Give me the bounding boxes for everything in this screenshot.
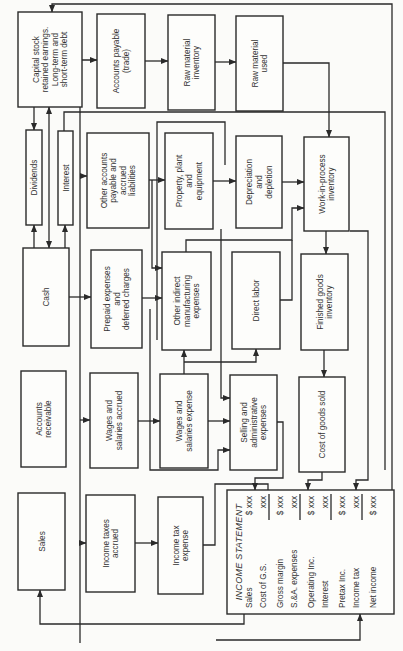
cogs-to-is-line	[308, 472, 322, 490]
ppe-to-selling-line	[221, 229, 230, 398]
box-wages-accrued: Wages andsalaries accrued	[90, 373, 138, 468]
income-statement-row-label: Operating Inc.	[307, 557, 316, 608]
box-accounts-payable: Accounts payable(trade)	[97, 14, 145, 108]
box-finished-goods: Finished goodsinventory	[301, 254, 348, 350]
box-label: Selling and	[240, 402, 249, 443]
box-label: short-term debt	[60, 31, 69, 87]
box-other-indirect: Other indirectmanufacturingexpenses	[162, 252, 211, 350]
box-property-plant: Property, plantandequipment	[165, 133, 213, 229]
box-label: Other accounts	[100, 153, 109, 209]
income-statement-row-label: Income tax	[352, 568, 361, 608]
box-label: inventory	[327, 166, 336, 200]
box-label: expenses	[192, 283, 201, 318]
box-income-taxes-accrued: Income taxesaccrued	[86, 495, 135, 592]
income-statement-row-value: $ xxx	[307, 496, 316, 515]
box-label: deferred charges	[122, 268, 131, 330]
box-label: Work-in-process	[318, 154, 327, 213]
raw-used-to-wip-line	[283, 63, 329, 137]
income-statement-row-label: Cost of G.S.	[259, 563, 268, 608]
box-label: inventory	[192, 45, 201, 79]
box-label: and	[185, 174, 194, 188]
income-statement-title: INCOME STATEMENT	[234, 503, 244, 601]
box-label: expense	[181, 530, 190, 561]
box-selling-admin: Selling andadministrativeexpenses	[230, 375, 277, 470]
box-work-in-process: Work-in-processinventory	[304, 137, 349, 231]
income-statement: INCOME STATEMENTSales$ xxxCost of G.S.xx…	[227, 490, 394, 614]
box-label: expenses	[259, 405, 268, 440]
income-statement-row-value: $ xxx	[369, 496, 378, 515]
box-label: Long-term and	[51, 32, 60, 86]
box-label: Depreciation	[245, 159, 254, 205]
box-label: payable and	[109, 158, 118, 203]
box-raw-material-used: Raw materialused	[236, 16, 283, 111]
box-label: Sales	[38, 531, 47, 551]
income-statement-row-label: Net income	[369, 566, 378, 608]
box-interest: Interest	[58, 131, 73, 225]
box-label: Prepaid expenses	[103, 266, 112, 332]
box-label: Cost of goods sold	[318, 390, 327, 458]
box-accounts-receivable: Accountsreceivable	[21, 371, 66, 467]
box-label: used	[260, 54, 269, 72]
box-label: Other indirect	[173, 276, 182, 326]
box-sales: Sales	[18, 493, 65, 590]
box-direct-labor: Direct labor	[232, 252, 280, 349]
box-other-accounts-payable: Other accountspayable andaccruedliabilit…	[87, 133, 149, 228]
box-label: Property, plant	[175, 154, 184, 207]
income-statement-row-value: xxx	[321, 496, 330, 508]
income-statement-row-label: Gross margin	[276, 558, 285, 608]
box-prepaid: Prepaid expensesanddeferred charges	[91, 250, 142, 348]
box-cash: Cash	[23, 248, 69, 346]
box-label: retained earnings.	[41, 27, 50, 93]
box-label: administrative	[250, 397, 259, 448]
box-label: Raw material	[251, 39, 260, 87]
box-label: Accounts	[35, 402, 44, 436]
wip-side-line	[350, 231, 368, 490]
is-to-sales-line	[40, 590, 244, 624]
income-statement-row-label: Pretax Inc.	[338, 569, 347, 608]
box-label: Income taxes	[102, 519, 111, 568]
box-label: Cash	[42, 287, 51, 307]
box-label: Wages and	[175, 400, 184, 442]
box-label: (trade)	[122, 49, 131, 73]
box-label: manufacturing	[183, 275, 192, 327]
box-dividends: Dividends	[26, 130, 42, 225]
is-to-net-income-line	[216, 614, 360, 640]
income-statement-row-label: Interest	[321, 580, 330, 608]
cash-flow-diagram: Capital stockretained earnings.Long-term…	[0, 0, 403, 651]
income-statement-row-value: xxx	[259, 496, 268, 508]
box-wages-expense: Wages andsalaries expense	[160, 374, 208, 468]
box-label: Wages and	[105, 400, 114, 442]
box-label: Direct labor	[252, 279, 261, 321]
direct-labor-to-wip-line	[280, 240, 292, 300]
box-label: depletion	[265, 165, 274, 199]
box-label: inventory	[325, 284, 334, 318]
box-label: equipment	[195, 161, 204, 200]
box-label: accrued	[119, 165, 128, 195]
box-label: Income tax	[172, 525, 181, 565]
income-statement-row-label: S.&A. expenses	[290, 550, 299, 608]
box-capital-stock: Capital stockretained earnings.Long-term…	[18, 12, 82, 107]
box-label: Interest	[62, 164, 71, 192]
box-label: Raw material	[183, 38, 192, 86]
box-cogs: Cost of goods sold	[299, 377, 345, 472]
box-label: Accounts payable	[112, 28, 121, 93]
box-label: receivable	[44, 400, 53, 438]
box-label: liabilities	[128, 165, 137, 196]
income-statement-row-value: $ xxx	[276, 496, 285, 515]
box-label: and	[255, 175, 264, 189]
box-depreciation: Depreciationanddepletion	[236, 136, 282, 228]
income-statement-row-value: $ xxx	[338, 496, 347, 515]
income-statement-row-value: xxx	[290, 496, 299, 508]
income-statement-row-value: xxx	[352, 496, 361, 508]
box-label: Capital stock	[32, 35, 41, 83]
box-label: accrued	[111, 528, 120, 558]
box-label: Finished goods	[316, 274, 325, 330]
box-label: and	[113, 292, 122, 306]
box-label: salaries expense	[185, 390, 194, 452]
box-raw-material-inventory: Raw materialinventory	[168, 15, 215, 110]
box-label: Dividends	[30, 160, 39, 196]
box-income-tax-expense: Income taxexpense	[158, 497, 203, 594]
box-label: salaries accrued	[115, 390, 124, 450]
income-statement-row-value: $ xxx	[245, 496, 254, 515]
wages-to-direct-labor-line	[184, 349, 256, 362]
